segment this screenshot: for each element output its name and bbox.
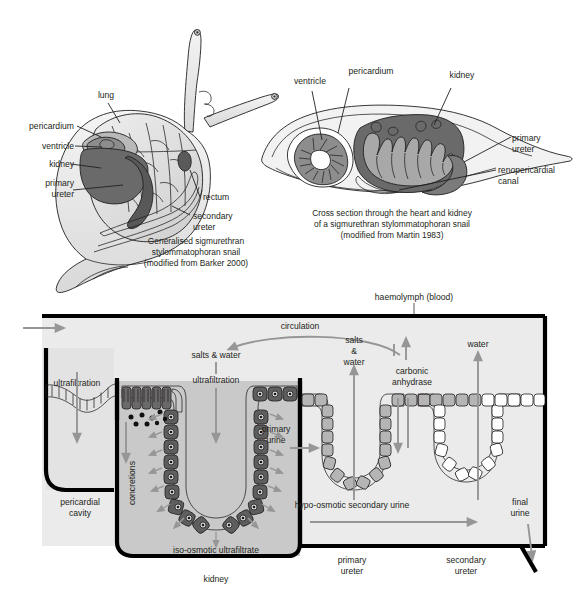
label-salts-line3: water — [342, 357, 364, 367]
label-primary-ureter-line2-c: ureter — [341, 566, 364, 576]
panel-a-caption-line2: stylommatophoran snail — [152, 247, 241, 257]
label-pericardium-cross: pericardium — [349, 66, 394, 76]
label-primary-urine-line2: urine — [266, 435, 285, 445]
label-final-urine-line2: urine — [510, 508, 529, 518]
label-salts-line1: salts — [345, 335, 363, 345]
panel-b-caption-line3: (modified from Martin 1983) — [341, 230, 444, 240]
label-secondary-ureter-line2: ureter — [193, 222, 216, 232]
label-final-urine-line1: final — [512, 497, 528, 507]
label-renopericardial-line1: renopericardial — [498, 165, 555, 175]
label-lung: lung — [98, 90, 114, 100]
label-carbonic-line2: anhydrase — [392, 377, 432, 387]
label-hypo-osmotic: hypo-osmotic secondary urine — [295, 500, 410, 510]
label-ultrafiltration-mid: ultrafiltration — [193, 375, 240, 385]
label-pericardium: pericardium — [29, 121, 74, 131]
label-kidney-cross: kidney — [450, 70, 476, 80]
snail-tentacles — [184, 30, 278, 133]
label-primary-ureter-cross-line1: primary — [512, 133, 541, 143]
label-pericardial-cavity-line2: cavity — [69, 508, 92, 518]
snail-excretory-diagram: lung pericardium ventricle kidney primar… — [0, 0, 575, 604]
label-primary-ureter-line2: ureter — [52, 189, 75, 199]
panel-a-snail: lung pericardium ventricle kidney primar… — [29, 30, 278, 293]
label-pericardial-cavity-line1: pericardial — [60, 497, 100, 507]
panel-b-caption-line2: of a sigmurethran stylommatophoran snail — [314, 219, 470, 229]
panel-b-cross-section: ventricle pericardium kidney primary ure… — [262, 66, 572, 240]
panel-a-caption-line1: Generalised sigmurethran — [148, 236, 245, 246]
label-primary-ureter-cross-line2: ureter — [512, 144, 535, 154]
label-salts-and-water-mid: salts & water — [191, 350, 240, 360]
pericardial-cavity-box — [46, 348, 114, 490]
label-salts-line2: & — [351, 346, 357, 356]
label-kidney: kidney — [49, 159, 75, 169]
label-secondary-ureter-line2-c: ureter — [455, 566, 478, 576]
label-secondary-ureter-line1: secondary — [193, 211, 233, 221]
label-primary-ureter-line1: primary — [45, 178, 74, 188]
label-primary-ureter-line1-c: primary — [338, 555, 367, 565]
label-ventricle: ventricle — [42, 141, 74, 151]
ventricle-lumen — [311, 150, 331, 169]
label-water: water — [466, 339, 488, 349]
figure-root: lung pericardium ventricle kidney primar… — [0, 0, 575, 604]
label-iso-osmotic: iso-osmotic ultrafiltrate — [173, 545, 259, 555]
label-concretions: concretions — [127, 461, 137, 505]
panel-c-schematic: haemolymph (blood) circulation — [23, 292, 545, 584]
label-ventricle-cross: ventricle — [294, 76, 326, 86]
label-kidney-schematic: kidney — [204, 574, 230, 584]
panel-b-caption-line1: Cross section through the heart and kidn… — [312, 208, 472, 218]
label-carbonic-line1: carbonic — [396, 366, 429, 376]
label-secondary-ureter-line1-c: secondary — [446, 555, 486, 565]
label-renopericardial-line2: canal — [498, 176, 519, 186]
label-rectum: rectum — [203, 192, 229, 202]
panel-a-caption-line3: (modified from Barker 2000) — [144, 258, 248, 268]
rectum-spot — [178, 151, 191, 171]
label-primary-urine-line1: primary — [262, 424, 291, 434]
label-circulation: circulation — [281, 321, 320, 331]
excretory-pore-wall — [521, 546, 536, 572]
label-haemolymph: haemolymph (blood) — [375, 292, 453, 302]
